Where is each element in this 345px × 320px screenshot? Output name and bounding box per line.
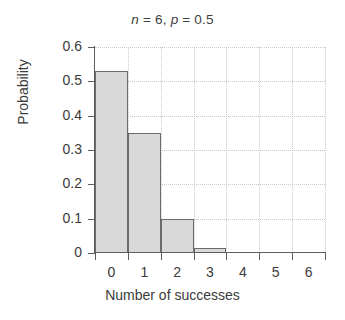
y-gridline: [95, 81, 325, 82]
y-axis-tick: [88, 81, 95, 82]
x-axis-tick: [128, 253, 129, 260]
x-axis-tick-label: 0: [98, 264, 124, 280]
x-gridline: [194, 47, 195, 253]
chart-title-n-symbol: n: [131, 12, 139, 27]
x-axis-tick: [292, 253, 293, 260]
y-axis-tick-label: 0.5: [36, 72, 82, 88]
y-axis-title: Probability: [15, 22, 31, 162]
x-axis-tick: [194, 253, 195, 260]
plot-area: [95, 47, 325, 253]
histogram-bar: [161, 219, 194, 253]
y-axis-tick-label: 0.1: [36, 210, 82, 226]
x-gridline: [325, 47, 326, 253]
y-axis-tick: [88, 253, 95, 254]
y-axis-tick: [88, 116, 95, 117]
y-axis-tick: [88, 150, 95, 151]
histogram-bar: [95, 71, 128, 253]
x-axis-tick: [259, 253, 260, 260]
y-axis-tick: [88, 47, 95, 48]
x-axis-tick: [161, 253, 162, 260]
y-axis-tick-label: 0.3: [36, 141, 82, 157]
x-axis-tick-label: 5: [263, 264, 289, 280]
chart-title-n-value: = 6,: [139, 12, 171, 27]
y-gridline: [95, 116, 325, 117]
x-gridline: [259, 47, 260, 253]
binomial-histogram-figure: n = 6, p = 0.5 Probability Number of suc…: [0, 0, 345, 320]
y-axis-tick-label: 0.2: [36, 175, 82, 191]
x-gridline: [226, 47, 227, 253]
x-axis-tick-label: 1: [131, 264, 157, 280]
x-axis-title: Number of successes: [0, 287, 345, 303]
y-axis-tick: [88, 184, 95, 185]
histogram-bar: [128, 133, 161, 253]
x-axis-tick-label: 2: [164, 264, 190, 280]
chart-title-p-value: = 0.5: [178, 12, 213, 27]
x-gridline: [292, 47, 293, 253]
y-axis-tick-label: 0.6: [36, 38, 82, 54]
y-axis-tick: [88, 219, 95, 220]
x-axis-tick-label: 3: [197, 264, 223, 280]
x-axis-tick: [325, 253, 326, 260]
y-axis-tick-label: 0.4: [36, 107, 82, 123]
x-axis-tick: [95, 253, 96, 260]
chart-title: n = 6, p = 0.5: [0, 12, 345, 27]
x-axis-tick-label: 4: [230, 264, 256, 280]
y-axis-tick-label: 0: [36, 244, 82, 260]
x-axis-tick-label: 6: [296, 264, 322, 280]
x-axis-tick: [226, 253, 227, 260]
y-gridline: [95, 47, 325, 48]
